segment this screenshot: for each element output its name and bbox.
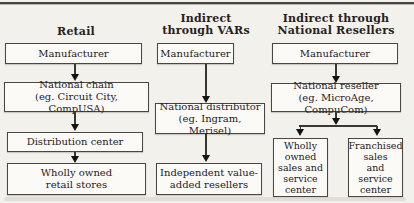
column-heading-retail: Retail xyxy=(5,26,147,38)
column-heading-indirect-national-resellers: Indirect through National Resellers xyxy=(271,13,401,37)
box-independent-value-added-resellers: Independent value- added resellers xyxy=(156,163,262,195)
scan-shadow xyxy=(4,197,406,201)
box-retail-manufacturer: Manufacturer xyxy=(5,43,142,64)
arrow-down-icon xyxy=(202,155,210,162)
box-wholly-owned-sales-service-center: Wholly owned sales and service center xyxy=(273,138,328,197)
top-rule xyxy=(0,2,414,5)
column-heading-indirect-vars: Indirect through VARs xyxy=(151,13,261,37)
box-vars-manufacturer: Manufacturer xyxy=(157,43,234,64)
box-national-distributor: National distributor (eg. Ingram, Merise… xyxy=(155,103,265,134)
box-wholly-owned-retail-stores: Wholly owned retail stores xyxy=(7,163,146,195)
flow-diagram: Retail Indirect through VARs Indirect th… xyxy=(0,0,414,203)
box-distribution-center: Distribution center xyxy=(7,132,143,152)
box-franchised-sales-service-center: Franchised sales and service center xyxy=(348,138,403,197)
connector-line xyxy=(205,134,207,156)
box-resellers-manufacturer: Manufacturer xyxy=(272,43,398,64)
box-national-reseller: National reseller (eg. MicroAge, CompuCo… xyxy=(271,83,401,112)
connector-line xyxy=(205,64,207,97)
arrow-down-icon xyxy=(296,129,304,136)
arrow-down-icon xyxy=(71,156,79,163)
arrow-down-icon xyxy=(373,129,381,136)
arrow-down-icon xyxy=(332,118,340,125)
arrow-down-icon xyxy=(71,124,79,131)
branch-line xyxy=(299,125,377,127)
box-national-chain: National chain (eg. Circuit City, CompUS… xyxy=(4,82,149,112)
